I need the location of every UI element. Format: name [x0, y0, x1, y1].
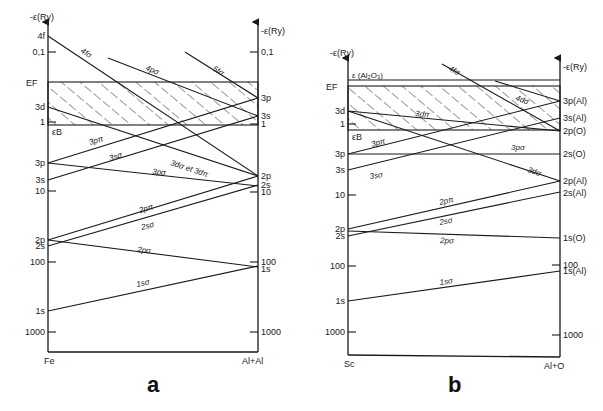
left-atom-label: Fe [44, 356, 55, 366]
right-level-label: 0,1 [261, 47, 274, 57]
right-level-label: 2p(Al) [563, 176, 587, 186]
left-level-label: 100 [330, 261, 345, 271]
right-level-label: 1000 [563, 330, 583, 340]
left-level-label: 1 [40, 117, 45, 127]
left-level-label: 2s [335, 231, 345, 241]
mo-correlation-diagram: EFεB4fσ4pσ5fσ3dσ et 3dπ3pπ3sσ3pσ2pπ2sσ2p… [0, 0, 603, 411]
orbital-label: 1sσ [136, 277, 152, 289]
bottom-band-label: εB [52, 127, 62, 137]
right-level-label: 2s(O) [563, 149, 586, 159]
orbital-label: 3pπ [370, 136, 387, 149]
orbital-label: 3sσ [108, 150, 124, 163]
right-level-label: 10 [261, 187, 271, 197]
orbital-label: 4fσ [447, 64, 462, 78]
left-level-label: 3s [35, 175, 45, 185]
right-level-label: 3p(Al) [563, 96, 587, 106]
fermi-level-label: EF [26, 78, 38, 88]
left-level-label: 4f [37, 31, 45, 41]
left-level-label: 3p [35, 158, 45, 168]
left-level-label: 1s [335, 296, 345, 306]
right-level-label: 1s [261, 264, 271, 274]
orbital-label: 3dσ et 3dπ [169, 158, 210, 179]
left-level-label: 3d [35, 102, 45, 112]
left-level-label: 3s [335, 165, 345, 175]
panel-caption: b [448, 372, 461, 397]
orbital-label: 3pσ [152, 167, 168, 178]
orbital-label: 3sσ [369, 170, 385, 181]
orbital-line [48, 240, 258, 267]
orbital-line [348, 231, 560, 238]
orbital-label: 3pπ [88, 134, 105, 147]
right-level-label: 2s(Al) [563, 188, 587, 198]
right-level-label: 1000 [261, 327, 281, 337]
left-atom-label: Sc [344, 359, 355, 369]
orbital-label: 3dπ [415, 109, 431, 119]
orbital-label: 3pσ [511, 143, 526, 152]
right-axis-title: -ε(Ry) [261, 26, 285, 36]
left-level-label: 2s [35, 241, 45, 251]
orbital-line [348, 271, 560, 301]
right-level-label: 1s(O) [563, 233, 586, 243]
left-level-label: 1s [35, 306, 45, 316]
baseline [348, 355, 560, 357]
orbital-label: 1sσ [439, 276, 455, 287]
panel-b-sc-al-o: EFεBε (Al₂O₃)4fσ4dσ3dπ3dσ3pπ3sσ3pσ2pπ2sσ… [325, 48, 587, 397]
left-axis-title: -ε(Ry) [330, 48, 354, 58]
orbital-line [48, 266, 258, 311]
orbital-label: 2pσ [136, 245, 153, 256]
orbital-label: 2sσ [139, 219, 156, 232]
orbital-label: 4pσ [144, 63, 161, 77]
orbital-line [348, 192, 560, 236]
left-level-label: 10 [35, 186, 45, 196]
left-axis-title: -ε(Ry) [30, 12, 54, 22]
bottom-band-label: εB [352, 132, 362, 142]
left-level-label: 1000 [325, 327, 345, 337]
orbital-label: 2pπ [137, 202, 155, 215]
left-level-label: 10 [335, 190, 345, 200]
left-level-label: 1000 [25, 327, 45, 337]
left-level-label: 0,1 [32, 47, 45, 57]
left-level-label: 3p [335, 149, 345, 159]
panel-a-fe-al-al: EFεB4fσ4pσ5fσ3dσ et 3dπ3pπ3sσ3pσ2pπ2sσ2p… [25, 12, 285, 397]
al2o3-level-label: ε (Al₂O₃) [352, 71, 383, 80]
orbital-label: 2pσ [439, 236, 455, 246]
right-level-label: 3s(Al) [563, 113, 587, 123]
right-atom-label: Al+O [544, 361, 564, 371]
orbital-label: 3dσ [526, 165, 543, 178]
orbital-line [48, 185, 258, 246]
fermi-level-label: EF [326, 82, 338, 92]
left-level-label: 1 [340, 119, 345, 129]
left-level-label: 3d [335, 106, 345, 116]
right-level-label: 1s(Al) [563, 266, 587, 276]
right-level-label: 2p(O) [563, 126, 586, 136]
panel-caption: a [147, 372, 160, 397]
orbital-label: 2sσ [438, 215, 455, 227]
orbital-line [348, 181, 560, 229]
left-level-label: 100 [30, 257, 45, 267]
right-axis-title: -ε(Ry) [563, 62, 587, 72]
right-atom-label: Al+Al [242, 356, 263, 366]
fermi-band-hatched [348, 86, 560, 130]
right-level-label: 1 [261, 119, 266, 129]
right-level-label: 3p [261, 93, 271, 103]
